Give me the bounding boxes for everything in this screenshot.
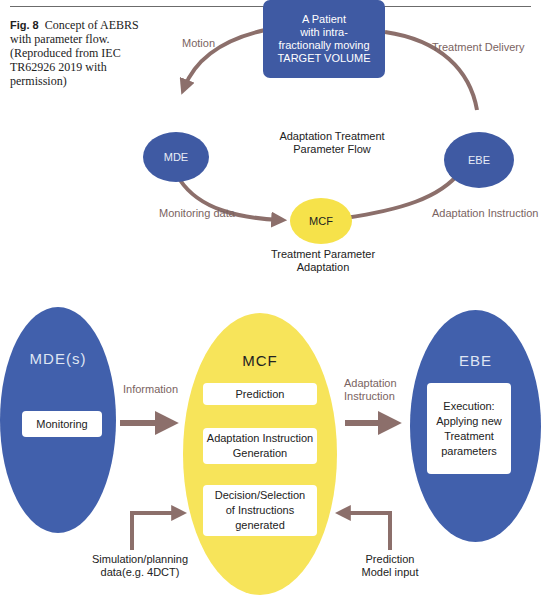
ebe-title: EBE bbox=[410, 352, 541, 369]
adaptation-instruction-label: Adaptation Instruction bbox=[432, 207, 538, 220]
patient-node: A Patient with intra- fractionally movin… bbox=[263, 0, 385, 78]
execution-line-1: Execution: bbox=[436, 399, 501, 414]
ebe-node: EBE bbox=[444, 132, 514, 188]
mcf-caption-line-2: Adaptation bbox=[268, 261, 378, 274]
center-title-line-1: Adaptation Treatment bbox=[272, 130, 392, 143]
decision-line-1: Decision/Selection bbox=[215, 488, 306, 503]
mde-node-label: MDE bbox=[164, 151, 188, 163]
center-title-line-2: Parameter Flow bbox=[272, 143, 392, 156]
prediction-input-line-2: Model input bbox=[340, 566, 440, 579]
mcf-title: MCF bbox=[183, 352, 337, 369]
execution-line-3: Treatment bbox=[436, 429, 501, 444]
mcf-caption-line-1: Treatment Parameter bbox=[268, 248, 378, 261]
decision-selection-box: Decision/Selection of Instructions gener… bbox=[203, 485, 317, 536]
decision-line-2: of Instructions bbox=[215, 503, 306, 518]
center-title: Adaptation Treatment Parameter Flow bbox=[272, 130, 392, 156]
prediction-input-label: Prediction Model input bbox=[340, 553, 440, 579]
patient-line-3: fractionally moving bbox=[277, 39, 370, 52]
ebe-node-label: EBE bbox=[468, 154, 490, 166]
monitoring-box: Monitoring bbox=[22, 411, 102, 437]
simulation-input-label: Simulation/planning data(e.g. 4DCT) bbox=[80, 553, 200, 579]
execution-line-2: Applying new bbox=[436, 414, 501, 429]
prediction-box-label: Prediction bbox=[236, 387, 285, 402]
mcf-node-label: MCF bbox=[309, 215, 333, 227]
execution-box: Execution: Applying new Treatment parame… bbox=[427, 383, 511, 474]
prediction-input-arrow bbox=[342, 513, 390, 550]
aig-line-2: Generation bbox=[207, 446, 313, 461]
patient-line-2: with intra- bbox=[277, 26, 370, 39]
treatment-delivery-label: Treatment Delivery bbox=[432, 41, 525, 54]
aig-line-1: Adaptation Instruction bbox=[207, 431, 313, 446]
mde-title: MDE(s) bbox=[0, 350, 116, 367]
adaptation-instruction-bottom-label: Adaptation Instruction bbox=[344, 377, 397, 403]
adaptation-instruction-generation-box: Adaptation Instruction Generation bbox=[203, 428, 317, 464]
prediction-input-line-1: Prediction bbox=[340, 553, 440, 566]
mcf-node: MCF bbox=[290, 198, 352, 244]
simulation-input-arrow bbox=[132, 513, 180, 550]
adaptation-instruction-line-1: Adaptation bbox=[344, 377, 397, 390]
mde-node: MDE bbox=[143, 132, 209, 182]
mcf-caption: Treatment Parameter Adaptation bbox=[268, 248, 378, 274]
simulation-line-2: data(e.g. 4DCT) bbox=[80, 566, 200, 579]
execution-line-4: parameters bbox=[436, 444, 501, 459]
monitoring-box-label: Monitoring bbox=[36, 417, 87, 432]
simulation-line-1: Simulation/planning bbox=[80, 553, 200, 566]
patient-line-1: A Patient bbox=[277, 13, 370, 26]
prediction-box: Prediction bbox=[203, 383, 317, 405]
information-label: Information bbox=[123, 383, 178, 396]
adaptation-instruction-line-2: Instruction bbox=[344, 390, 397, 403]
motion-label: Motion bbox=[182, 37, 215, 50]
patient-line-4: TARGET VOLUME bbox=[277, 52, 370, 65]
decision-line-3: generated bbox=[215, 518, 306, 533]
monitoring-data-label: Monitoring data bbox=[159, 207, 235, 220]
